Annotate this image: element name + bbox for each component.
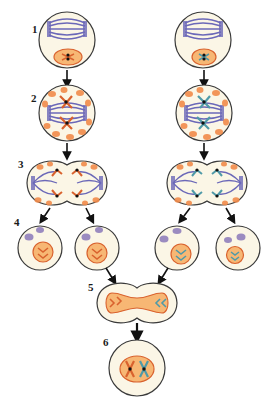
step-label-5: 5 [88,281,94,293]
polar-body [237,234,246,241]
stage4-cell-right-1 [155,226,199,270]
step-label-1: 1 [32,23,38,35]
stage2-cell-right [176,85,232,141]
stage3-cell-left [27,161,107,206]
step-label-4: 4 [14,216,20,228]
arrow-4-5-left [106,268,114,281]
arrow-4-5-right [160,268,168,281]
polar-body [82,234,91,241]
polar-body [173,228,182,234]
stage2-cell-left [39,85,95,141]
polar-body [160,236,169,243]
arrow-3-4-right-b [226,208,233,220]
stage4-cell-left-2 [75,226,119,270]
arrow-3-4-right-a [181,208,190,220]
stage4-cell-right-2 [216,226,260,270]
stage1-cell-left [39,12,95,68]
polar-body [25,234,34,241]
step-label-2: 2 [31,92,37,104]
step-label-6: 6 [103,336,109,348]
polar-body [95,227,103,233]
step-label-3: 3 [18,158,24,170]
stage6-zygote [109,340,165,396]
stage5-fusion-cell [97,283,177,323]
stage4-cell-left-1 [18,226,62,270]
polar-body [224,237,232,243]
diagram-canvas: 1 2 3 4 5 6 [0,0,274,403]
nucleus [120,356,154,382]
stage3-cell-right [167,161,247,206]
polar-body [36,227,44,233]
arrow-3-4-left-b [86,208,92,220]
arrow-3-4-left-a [42,208,50,220]
stage1-cell-right [175,12,231,68]
